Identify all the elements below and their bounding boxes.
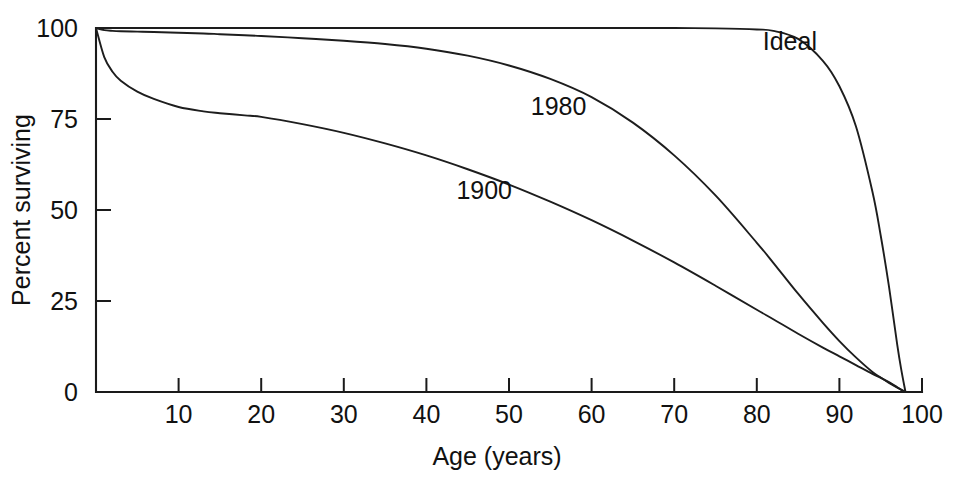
x-tick-label: 70 [660,400,688,428]
x-axis-ticks [179,378,922,392]
curve-label-1900: 1900 [456,176,512,204]
x-tick-label: 20 [247,400,275,428]
curve-label-ideal: Ideal [763,27,817,55]
axes-group [96,28,922,392]
curve-label-1980: 1980 [531,92,587,120]
x-tick-label: 90 [825,400,853,428]
x-tick-label: 50 [495,400,523,428]
x-tick-label: 60 [578,400,606,428]
y-axis-ticks [96,119,111,301]
curve-1980 [96,28,905,392]
y-tick-label: 25 [50,287,78,315]
curve-labels: Ideal19801900 [456,27,817,204]
y-tick-label: 100 [36,14,78,42]
x-tick-label: 10 [165,400,193,428]
x-axis-title: Age (years) [432,442,561,470]
data-curves [96,28,905,392]
curve-1900 [96,28,905,392]
survival-curves-figure: 102030405060708090100 0255075100 Ideal19… [0,0,961,479]
curve-ideal [96,28,905,392]
axis-lines [96,28,922,392]
x-tick-label: 40 [412,400,440,428]
y-tick-label: 75 [50,105,78,133]
x-tick-label: 80 [743,400,771,428]
y-tick-label: 50 [50,196,78,224]
x-axis-tick-labels: 102030405060708090100 [165,400,943,428]
chart-canvas: 102030405060708090100 0255075100 Ideal19… [0,0,961,479]
x-tick-label: 30 [330,400,358,428]
x-tick-label: 100 [901,400,943,428]
y-axis-title: Percent surviving [7,114,35,306]
y-axis-tick-labels: 0255075100 [36,14,78,406]
y-tick-label: 0 [64,378,78,406]
